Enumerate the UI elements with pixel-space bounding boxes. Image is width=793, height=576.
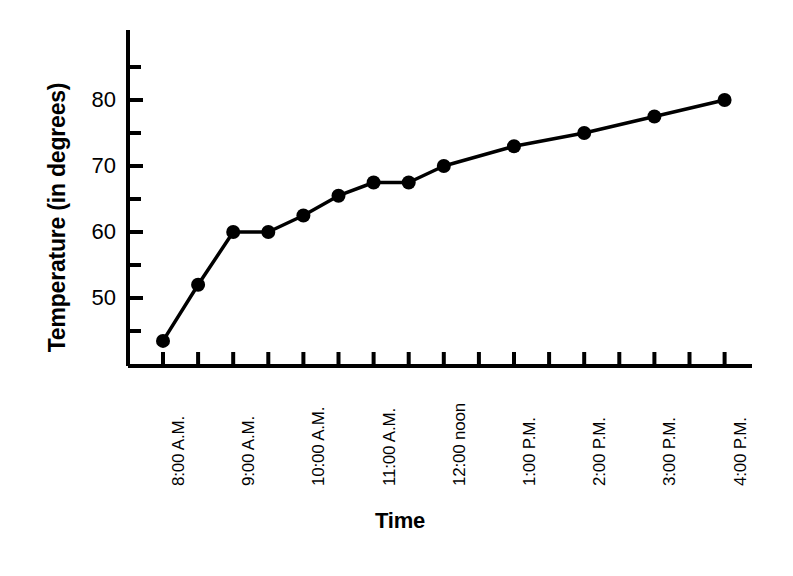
data-point xyxy=(332,189,346,203)
data-series-markers xyxy=(156,93,732,348)
data-series-line xyxy=(163,100,725,341)
data-point xyxy=(191,278,205,292)
data-point xyxy=(718,93,732,107)
x-axis-ticks xyxy=(163,352,725,366)
data-point xyxy=(402,176,416,190)
y-axis-ticks xyxy=(128,67,143,331)
axis-lines xyxy=(128,30,752,366)
data-point xyxy=(367,176,381,190)
data-point xyxy=(437,159,451,173)
data-point xyxy=(226,225,240,239)
data-point xyxy=(647,110,661,124)
line-chart: Temperature (in degrees) Time 50607080 8… xyxy=(0,0,793,576)
data-point xyxy=(296,209,310,223)
data-point xyxy=(261,225,275,239)
data-point xyxy=(507,139,521,153)
data-point xyxy=(156,334,170,348)
plot-area xyxy=(0,0,793,576)
data-point xyxy=(577,126,591,140)
